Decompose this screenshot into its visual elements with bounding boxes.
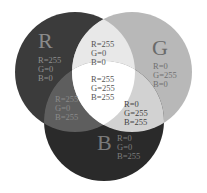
value-line: B=0 bbox=[153, 80, 177, 89]
value-line: B=255 bbox=[124, 118, 148, 127]
letter-r: R bbox=[38, 30, 53, 52]
rgb-venn-diagram: R R=255 G=0 B=0 G R=0 G=255 B=0 B R=0 G=… bbox=[0, 0, 207, 193]
rb-values: R=255 G=0 B=255 bbox=[55, 95, 78, 122]
value-line: B=255 bbox=[117, 152, 140, 161]
rg-values: R=255 G=0 B=0 bbox=[91, 40, 114, 67]
rgb-values: R=255 G=255 B=255 bbox=[91, 75, 115, 102]
value-line: B=0 bbox=[38, 74, 61, 83]
b-values: R=0 G=0 B=255 bbox=[117, 134, 140, 161]
gb-values: R=0 G=255 B=255 bbox=[124, 100, 148, 127]
value-line: B=255 bbox=[91, 93, 115, 102]
g-values: R=0 G=255 B=0 bbox=[153, 62, 177, 89]
value-line: B=0 bbox=[91, 58, 114, 67]
letter-b: B bbox=[97, 132, 112, 154]
value-line: B=255 bbox=[55, 113, 78, 122]
letter-g: G bbox=[152, 37, 168, 59]
r-values: R=255 G=0 B=0 bbox=[38, 56, 61, 83]
